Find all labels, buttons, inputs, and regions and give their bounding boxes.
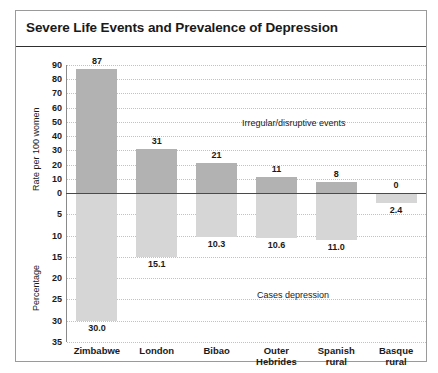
- upper-tick-label: 40: [22, 131, 62, 141]
- lower-tick-label: 35: [22, 337, 62, 347]
- gridline: [67, 342, 426, 343]
- category-label-line: rural: [361, 356, 431, 367]
- bar-value-lower: 2.4: [371, 205, 421, 215]
- bar-lower: [316, 193, 357, 240]
- upper-tick-label: 30: [22, 145, 62, 155]
- bar-upper: [316, 182, 357, 193]
- bar-value-upper: 8: [311, 169, 361, 179]
- chart-figure: Severe Life Events and Prevalence of Dep…: [0, 0, 438, 373]
- upper-tick-label: 0: [22, 188, 62, 198]
- gridline: [67, 257, 426, 258]
- bar-value-lower: 30.0: [72, 323, 122, 333]
- gridline: [67, 165, 426, 166]
- lower-tick-label: 15: [22, 252, 62, 262]
- bar-value-upper: 21: [192, 150, 242, 160]
- bar-value-upper: 87: [72, 56, 122, 66]
- bar-value-upper: 11: [251, 164, 301, 174]
- upper-tick-label: 70: [22, 88, 62, 98]
- upper-tick-label: 50: [22, 117, 62, 127]
- bar-lower: [196, 193, 237, 237]
- bar-value-upper: 31: [132, 136, 182, 146]
- chart-title-bar: Severe Life Events and Prevalence of Dep…: [16, 11, 426, 47]
- upper-tick-label: 80: [22, 74, 62, 84]
- page-title: Severe Life Events and Prevalence of Dep…: [26, 20, 338, 35]
- bar-lower: [256, 193, 297, 238]
- upper-tick-label: 20: [22, 160, 62, 170]
- chart-card: Severe Life Events and Prevalence of Dep…: [15, 10, 427, 362]
- gridline: [67, 136, 426, 137]
- upper-tick-label: 60: [22, 103, 62, 113]
- bar-value-lower: 15.1: [132, 259, 182, 269]
- annotation-lower: Cases depression: [257, 290, 329, 300]
- bar-upper: [196, 163, 237, 193]
- plot-area: 8730.03115.12110.31110.6811.002.4 Irregu…: [67, 65, 426, 342]
- bar-lower: [376, 193, 417, 203]
- bar-value-lower: 11.0: [311, 242, 361, 252]
- lower-tick-label: 25: [22, 294, 62, 304]
- bar-lower: [76, 193, 117, 321]
- zero-baseline: [66, 193, 426, 194]
- bar-value-upper: 0: [371, 180, 421, 190]
- category-label-line: Basque: [361, 345, 431, 356]
- gridline: [67, 299, 426, 300]
- gridline: [67, 150, 426, 151]
- lower-tick-label: 5: [22, 209, 62, 219]
- gridline: [67, 93, 426, 94]
- lower-tick-label: 30: [22, 316, 62, 326]
- bar-value-lower: 10.3: [192, 239, 242, 249]
- lower-tick-label: 20: [22, 273, 62, 283]
- gridline: [67, 278, 426, 279]
- annotation-upper: Irregular/disruptive events: [242, 118, 346, 128]
- gridline: [67, 321, 426, 322]
- bar-lower: [136, 193, 177, 257]
- gridline: [67, 236, 426, 237]
- gridline: [67, 79, 426, 80]
- lower-tick-label: 10: [22, 231, 62, 241]
- upper-tick-label: 10: [22, 174, 62, 184]
- bar-value-lower: 10.6: [251, 240, 301, 250]
- bar-upper: [76, 69, 117, 193]
- category-label: Basquerural: [361, 345, 431, 367]
- gridline: [67, 108, 426, 109]
- bar-upper: [136, 149, 177, 193]
- bar-upper: [256, 177, 297, 193]
- upper-tick-label: 90: [22, 60, 62, 70]
